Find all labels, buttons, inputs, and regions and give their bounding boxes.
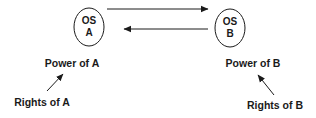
arrow-rights-b-to-power-b — [258, 75, 274, 95]
power-of-a-label: Power of A — [45, 57, 100, 69]
os-a-label-line2: A — [85, 27, 92, 38]
node-os-b: OS B — [215, 9, 245, 47]
diagram-canvas: OS A OS B Power of A Power of B Rights o… — [0, 0, 316, 118]
rights-of-b-label: Rights of B — [247, 99, 303, 111]
os-a-label-line1: OS — [82, 15, 97, 26]
power-of-b-label: Power of B — [226, 57, 281, 69]
node-os-a: OS A — [74, 8, 104, 46]
os-b-label-line1: OS — [223, 16, 238, 27]
arrow-rights-a-to-power-a — [47, 74, 63, 91]
rights-of-a-label: Rights of A — [14, 96, 70, 108]
os-b-label-line2: B — [226, 28, 233, 39]
